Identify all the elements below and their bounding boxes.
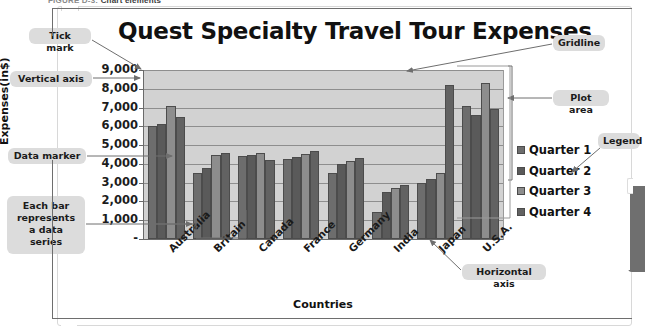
- callout-arrows: [0, 0, 645, 335]
